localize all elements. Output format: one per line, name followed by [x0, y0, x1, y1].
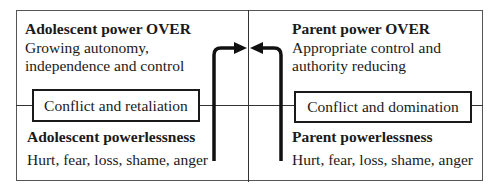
adolescent-power-over-line-2: independence and control [25, 57, 184, 75]
conflict-retaliation-box: Conflict and retaliation [32, 89, 200, 122]
adolescent-powerlessness-heading: Adolescent powerlessness [27, 128, 195, 146]
adolescent-power-over-line-1: Growing autonomy, [25, 39, 149, 57]
adolescent-powerlessness-feelings: Hurt, fear, loss, shame, anger [27, 151, 208, 169]
parent-power-over-line-2: authority reducing [292, 57, 406, 75]
vertical-divider [248, 10, 249, 182]
conflict-domination-box: Conflict and domination [294, 91, 472, 123]
parent-power-over-line-1: Appropriate control and [292, 39, 441, 57]
parent-power-over-heading: Parent power OVER [292, 20, 430, 38]
conflict-retaliation-label: Conflict and retaliation [44, 97, 188, 115]
parent-powerlessness-heading: Parent powerlessness [292, 128, 433, 146]
parent-powerlessness-feelings: Hurt, fear, loss, shame, anger [292, 151, 473, 169]
conflict-domination-label: Conflict and domination [307, 98, 459, 116]
adolescent-power-over-heading: Adolescent power OVER [25, 20, 191, 38]
